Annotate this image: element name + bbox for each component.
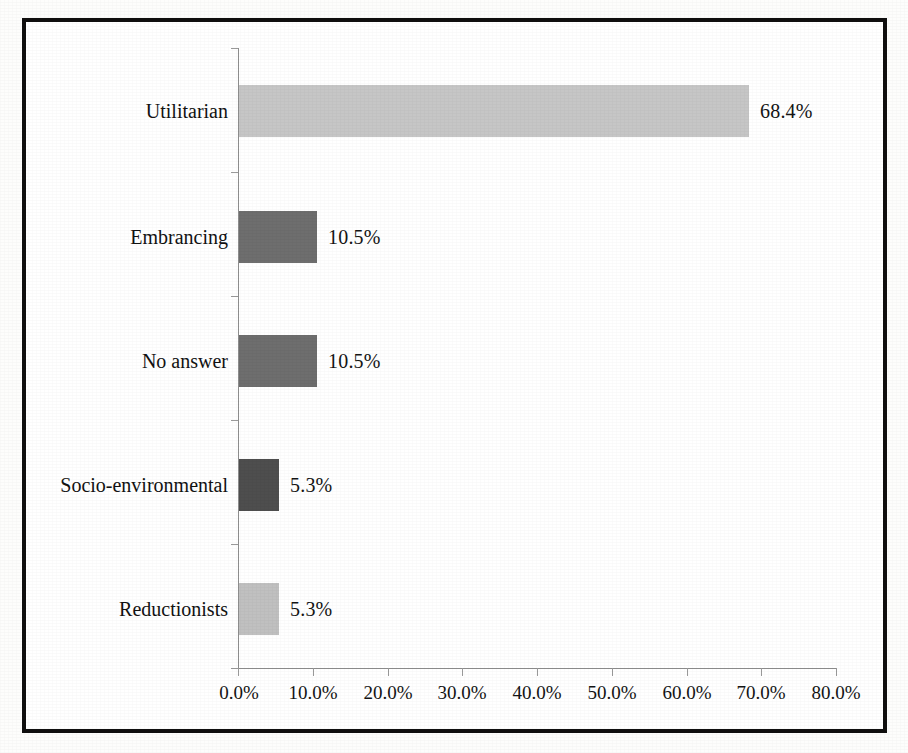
x-axis-tick [238,668,239,676]
y-axis-tick [231,48,238,49]
x-axis-label-20: 20.0% [363,683,412,702]
bar-chart-plot-area: Utilitarian 68.4% Embrancing 10.5% No an… [0,0,908,753]
category-label-reductionists: Reductionists [40,599,228,619]
category-label-no-answer: No answer [40,351,228,371]
x-axis-tick [761,668,762,676]
bar-socio-environmental [239,459,279,511]
x-axis-label-30: 30.0% [437,683,486,702]
bar-reductionists [239,583,279,635]
category-label-text: Embrancing [130,227,228,247]
x-axis-label-40: 40.0% [512,683,561,702]
x-axis-tick [313,668,314,676]
x-axis-label-70: 70.0% [736,683,785,702]
y-axis-tick [231,544,238,545]
x-axis-tick [836,668,837,676]
bar-embrancing [239,211,317,263]
y-axis-tick [231,172,238,173]
bar-value-socio-environmental: 5.3% [290,475,332,495]
x-axis-tick [612,668,613,676]
category-label-text: Utilitarian [146,101,228,121]
bar-value-no-answer: 10.5% [328,351,381,371]
x-axis-tick [388,668,389,676]
bar-value-embrancing: 10.5% [328,227,381,247]
category-label-text: Socio-environmental [60,475,228,495]
category-label-socio-environmental: Socio-environmental [40,475,228,495]
category-label-utilitarian: Utilitarian [40,101,228,121]
x-axis-label-0: 0.0% [219,683,259,702]
y-axis-tick [231,296,238,297]
y-axis-tick [231,420,238,421]
category-label-text: Reductionists [119,599,228,619]
category-label-embrancing: Embrancing [40,227,228,247]
y-axis-tick [231,668,238,669]
x-axis-label-60: 60.0% [662,683,711,702]
bar-utilitarian [239,85,749,137]
x-axis-tick [462,668,463,676]
bar-value-utilitarian: 68.4% [760,101,813,121]
x-axis-tick [687,668,688,676]
x-axis-tick [537,668,538,676]
bar-no-answer [239,335,317,387]
x-axis-label-10: 10.0% [288,683,337,702]
bar-value-reductionists: 5.3% [290,599,332,619]
x-axis-label-80: 80.0% [811,683,860,702]
figure-canvas: Utilitarian 68.4% Embrancing 10.5% No an… [0,0,908,753]
x-axis-label-50: 50.0% [587,683,636,702]
category-label-text: No answer [142,351,228,371]
